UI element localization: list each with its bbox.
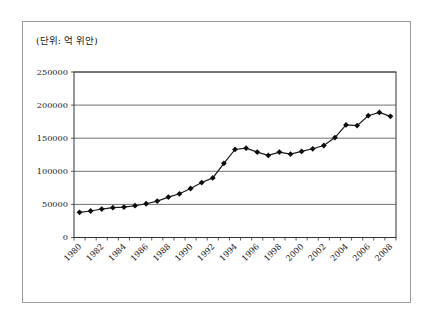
- x-tick-label: 1980: [62, 241, 84, 263]
- x-tick-label: 1996: [239, 241, 261, 263]
- x-tick-label: 2002: [306, 241, 328, 263]
- data-point-marker: [376, 109, 382, 115]
- x-tick-label: 1988: [150, 241, 172, 263]
- data-point-marker: [254, 149, 260, 155]
- data-point-marker: [132, 203, 138, 209]
- x-tick-label: 1998: [262, 241, 284, 263]
- x-tick-label: 1992: [195, 241, 217, 263]
- y-tick-label: 50000: [42, 199, 68, 209]
- data-point-marker: [199, 180, 205, 186]
- data-point-marker: [99, 206, 105, 212]
- data-point-marker: [177, 191, 183, 197]
- x-tick-label: 2008: [373, 241, 395, 263]
- x-tick-label: 1986: [128, 241, 150, 263]
- data-point-marker: [243, 145, 249, 151]
- plot-border: [74, 72, 396, 238]
- data-point-marker: [165, 194, 171, 200]
- data-point-marker: [388, 113, 394, 119]
- y-tick-label: 250000: [37, 67, 68, 77]
- x-tick-label: 1994: [217, 241, 239, 263]
- data-point-marker: [143, 201, 149, 207]
- data-point-marker: [277, 149, 283, 155]
- y-tick-label: 100000: [37, 166, 68, 176]
- data-point-marker: [288, 151, 294, 157]
- x-tick-label: 2000: [284, 241, 306, 263]
- y-tick-label: 150000: [37, 133, 68, 143]
- x-tick-label: 1982: [84, 241, 106, 263]
- data-point-marker: [299, 149, 305, 155]
- x-tick-label: 2006: [350, 241, 372, 263]
- data-point-marker: [188, 186, 194, 192]
- data-point-marker: [121, 204, 127, 210]
- y-tick-label: 0: [63, 232, 68, 242]
- data-point-marker: [265, 153, 271, 159]
- y-tick-label: 200000: [37, 100, 68, 110]
- data-point-marker: [110, 205, 116, 211]
- data-point-marker: [88, 208, 94, 214]
- data-point-marker: [310, 146, 316, 152]
- x-tick-label: 1984: [106, 241, 128, 263]
- data-line: [80, 112, 391, 212]
- x-tick-label: 1990: [173, 241, 195, 263]
- x-tick-label: 2004: [328, 241, 350, 263]
- line-chart: 0500001000001500002000002500001980198219…: [0, 0, 433, 325]
- data-point-marker: [77, 209, 83, 215]
- data-point-marker: [154, 198, 160, 204]
